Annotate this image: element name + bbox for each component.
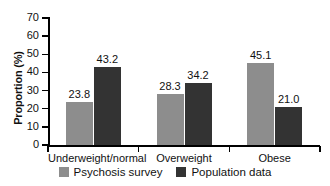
bar-0-2 xyxy=(247,63,274,145)
legend-swatch-icon xyxy=(176,167,186,177)
bar-value-label: 23.8 xyxy=(63,88,95,100)
bar-1-0 xyxy=(94,67,121,145)
legend-label: Psychosis survey xyxy=(74,166,163,178)
legend-item-1: Population data xyxy=(176,166,271,178)
y-axis-tick-label: 60 xyxy=(14,29,39,41)
y-axis-tick-label: 40 xyxy=(14,65,39,77)
bar-value-label: 21.0 xyxy=(273,93,305,105)
legend-label: Population data xyxy=(191,166,271,178)
bar-0-1 xyxy=(157,94,184,145)
legend-item-0: Psychosis survey xyxy=(59,166,163,178)
bar-value-label: 43.2 xyxy=(91,53,123,65)
bar-1-2 xyxy=(275,107,302,145)
bar-0-0 xyxy=(66,102,93,145)
bar-value-label: 28.3 xyxy=(154,80,186,92)
y-axis-tick-label: 30 xyxy=(14,84,39,96)
y-axis-tick-label: 50 xyxy=(14,47,39,59)
y-axis-tick-label: 0 xyxy=(14,138,39,150)
bar-value-label: 45.1 xyxy=(245,49,277,61)
plot-area: 23.843.228.334.245.121.0 xyxy=(48,18,320,145)
bar-chart: Proportion (%) 010203040506070 Underweig… xyxy=(0,0,330,186)
y-axis-tick-label: 20 xyxy=(14,102,39,114)
y-axis-tick-label: 10 xyxy=(14,120,39,132)
y-axis-tick-label: 70 xyxy=(14,11,39,23)
bar-value-label: 34.2 xyxy=(182,69,214,81)
legend-swatch-icon xyxy=(59,167,69,177)
bar-1-1 xyxy=(185,83,212,145)
x-axis-line xyxy=(48,145,320,147)
x-axis-category-label: Overweight xyxy=(139,152,230,164)
x-axis-category-label: Obese xyxy=(229,152,320,164)
x-axis-category-label: Underweight/normal xyxy=(48,152,139,164)
chart-legend: Psychosis surveyPopulation data xyxy=(0,166,330,178)
